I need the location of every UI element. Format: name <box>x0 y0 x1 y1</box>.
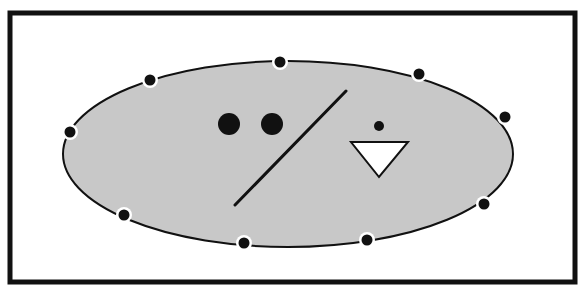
large-dot <box>261 113 283 135</box>
large-dot <box>218 113 240 135</box>
diagram-canvas <box>0 0 582 294</box>
boundary-dot <box>414 69 425 80</box>
boundary-dot <box>239 238 250 249</box>
boundary-dot <box>500 112 511 123</box>
boundary-dot <box>145 75 156 86</box>
boundary-dot <box>65 127 76 138</box>
boundary-dot <box>119 210 130 221</box>
small-dot <box>374 121 384 131</box>
boundary-dot <box>275 57 286 68</box>
boundary-dot <box>362 235 373 246</box>
boundary-dot <box>479 199 490 210</box>
